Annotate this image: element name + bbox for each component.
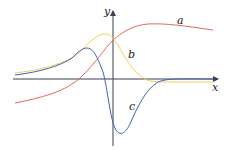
- curve-b-label: b: [128, 48, 135, 61]
- curve-b: [15, 34, 213, 82]
- x-axis-label: x: [212, 81, 219, 94]
- y-axis-label: y: [103, 5, 111, 18]
- curve-c-label: c: [129, 100, 135, 113]
- curve-a-label: a: [177, 14, 184, 27]
- curve-a: [15, 24, 213, 103]
- graph-canvas: y x a b c: [0, 0, 228, 151]
- curve-c: [15, 48, 213, 133]
